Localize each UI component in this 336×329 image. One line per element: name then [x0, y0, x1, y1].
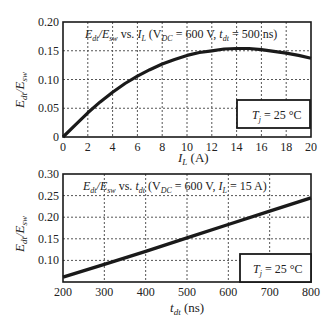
y-tick-label: 0.20 [38, 15, 59, 29]
top-plot-title: Edt/Esw vs. IL (VDC = 600 V, tdt = 500 n… [84, 27, 277, 43]
x-tick-label: 2 [85, 140, 91, 154]
x-tick-label: 4 [110, 140, 116, 154]
x-tick-label: 600 [219, 285, 237, 299]
x-tick-label: 16 [255, 140, 267, 154]
top-plot-xlabel: IL (A) [177, 150, 209, 167]
y-tick-label: 0.10 [38, 253, 59, 267]
x-tick-label: 14 [231, 140, 243, 154]
x-tick-label: 400 [137, 285, 155, 299]
x-tick-label: 20 [305, 140, 317, 154]
top-plot: 0246810121416182000.050.100.150.20 Edt/E… [12, 15, 317, 167]
y-tick-label: 0.10 [38, 73, 59, 87]
figure: 0246810121416182000.050.100.150.20 Edt/E… [0, 0, 336, 329]
x-tick-label: 700 [261, 285, 279, 299]
x-tick-label: 200 [54, 285, 72, 299]
y-tick-label: 0.30 [38, 167, 59, 181]
x-tick-label: 6 [134, 140, 140, 154]
y-tick-label: 0 [53, 130, 59, 144]
y-tick-label: 0.15 [38, 232, 59, 246]
y-tick-label: 0.25 [38, 189, 59, 203]
y-tick-label: 0.15 [38, 44, 59, 58]
bottom-plot-ylabel: Edt/Esw [12, 216, 29, 253]
bottom-plot-title: Edt/Esw vs. tdt (VDC = 600 V, IL = 15 A) [82, 179, 267, 195]
x-tick-label: 500 [178, 285, 196, 299]
y-tick-label: 0.20 [38, 210, 59, 224]
y-tick-label: 0.05 [38, 101, 59, 115]
x-tick-label: 18 [280, 140, 292, 154]
x-tick-label: 800 [302, 285, 320, 299]
x-tick-label: 300 [95, 285, 113, 299]
bottom-plot-xlabel: tdt (ns) [170, 300, 204, 317]
bottom-plot: 2003004005006007008000.100.150.200.250.3… [12, 167, 320, 317]
x-tick-label: 0 [60, 140, 66, 154]
top-plot-ylabel: Edt/Esw [12, 72, 29, 109]
x-tick-label: 8 [159, 140, 165, 154]
